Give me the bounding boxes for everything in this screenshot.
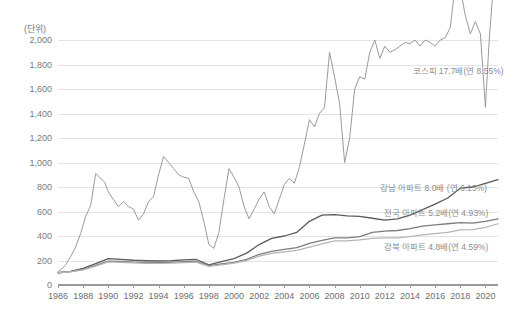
x-tick-mark: [460, 285, 461, 288]
x-tick-label: 1996: [174, 291, 194, 301]
y-tick-label: 2,000: [29, 35, 58, 45]
x-tick-mark: [234, 285, 235, 288]
x-tick-mark: [284, 285, 285, 288]
x-tick-label: 2002: [249, 291, 269, 301]
y-tick-label: 800: [37, 182, 58, 192]
x-tick-label: 2018: [450, 291, 470, 301]
x-tick-mark: [184, 285, 185, 288]
x-tick-label: 1994: [149, 291, 169, 301]
x-tick-mark: [209, 285, 210, 288]
x-tick-label: 2008: [325, 291, 345, 301]
x-tick-mark: [309, 285, 310, 288]
x-tick-label: 2000: [224, 291, 244, 301]
y-axis-unit-label: (단위): [24, 22, 46, 35]
y-tick-label: 200: [37, 256, 58, 266]
x-tick-label: 1986: [48, 291, 68, 301]
gridline: [58, 285, 498, 286]
x-tick-label: 2016: [425, 291, 445, 301]
x-tick-mark: [133, 285, 134, 288]
series-annotation: 강남 아파트 8.0배 (연 6.13%): [380, 181, 487, 193]
series-annotation: 코스피 17.7배(연 8.55%): [413, 64, 504, 76]
series-line: [58, 180, 498, 273]
y-tick-label: 1,000: [29, 158, 58, 168]
series-annotation: 강북 아파트 4.8배(연 4.59%): [384, 240, 489, 252]
series-annotation: 전국 아파트 5.2배(연 4.93%): [384, 206, 489, 218]
x-tick-mark: [410, 285, 411, 288]
x-tick-label: 1988: [73, 291, 93, 301]
x-tick-label: 1992: [123, 291, 143, 301]
y-tick-label: 400: [37, 231, 58, 241]
plot-area: 02004006008001,0001,2001,4001,6001,8002,…: [58, 40, 498, 285]
y-tick-label: 1,200: [29, 133, 58, 143]
x-tick-mark: [83, 285, 84, 288]
x-tick-label: 2004: [274, 291, 294, 301]
x-tick-label: 2012: [375, 291, 395, 301]
x-tick-mark: [335, 285, 336, 288]
x-tick-mark: [360, 285, 361, 288]
x-tick-mark: [108, 285, 109, 288]
x-tick-mark: [259, 285, 260, 288]
y-tick-label: 600: [37, 207, 58, 217]
y-tick-label: 1,600: [29, 84, 58, 94]
x-tick-label: 1990: [98, 291, 118, 301]
x-tick-mark: [58, 285, 59, 288]
y-tick-label: 1,800: [29, 60, 58, 70]
x-tick-label: 2010: [350, 291, 370, 301]
x-tick-label: 2014: [400, 291, 420, 301]
x-tick-label: 2020: [475, 291, 495, 301]
x-tick-mark: [435, 285, 436, 288]
stock-housing-index-chart: (단위) 02004006008001,0001,2001,4001,6001,…: [0, 0, 527, 313]
x-tick-mark: [485, 285, 486, 288]
x-tick-label: 2006: [299, 291, 319, 301]
y-tick-label: 0: [47, 280, 58, 290]
x-tick-mark: [159, 285, 160, 288]
x-axis-line: [58, 284, 498, 285]
y-tick-label: 1,400: [29, 109, 58, 119]
series-line: [58, 0, 498, 272]
x-tick-label: 1998: [199, 291, 219, 301]
x-tick-mark: [385, 285, 386, 288]
